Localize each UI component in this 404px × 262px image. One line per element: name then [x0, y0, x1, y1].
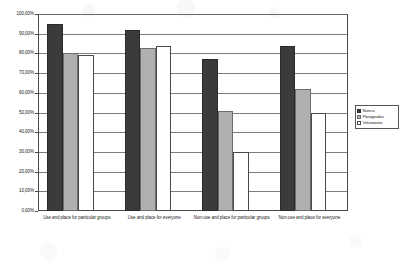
y-axis-tick-label: 50,00% [19, 110, 34, 115]
y-axis-tick-label: 80,00% [19, 51, 34, 56]
x-axis-category-label: Non-use and place for everyone [265, 215, 355, 221]
bar [233, 152, 249, 211]
y-axis-tick-label: 90,00% [19, 31, 34, 36]
y-axis-tick-label: 40,00% [19, 130, 34, 135]
legend-swatch [357, 109, 361, 113]
legend-swatch [357, 121, 361, 125]
bars-layer [38, 14, 348, 211]
legend-label: Voluntarios [363, 121, 383, 125]
bar [295, 89, 311, 211]
y-axis-tick-label: 20,00% [19, 169, 34, 174]
bar [78, 55, 94, 211]
y-axis-tick-label: 0,00% [21, 209, 34, 214]
y-axis-tick-label: 70,00% [19, 71, 34, 76]
y-axis-tick-label: 10,00% [19, 189, 34, 194]
legend-item: Voluntarios [357, 120, 396, 126]
bar-chart: 100,00%90,00%80,00%70,00%60,00%50,00%40,… [0, 0, 404, 262]
bar [202, 59, 218, 211]
bar [125, 30, 141, 211]
legend-swatch [357, 115, 361, 119]
y-axis-tick-label: 60,00% [19, 91, 34, 96]
bar [63, 53, 79, 211]
legend-label: Nunca [363, 109, 375, 113]
bar [140, 48, 156, 212]
x-axis-category-label: Use and place for everyone [110, 215, 200, 221]
x-axis-category-label: Non-use and place for particular groups [187, 215, 277, 221]
y-axis: 100,00%90,00%80,00%70,00%60,00%50,00%40,… [0, 0, 38, 215]
bar [218, 111, 234, 211]
y-axis-tick-label: 30,00% [19, 150, 34, 155]
bar-group [38, 14, 116, 211]
bar-group [271, 14, 349, 211]
bar [156, 46, 172, 211]
y-axis-tick-mark [35, 211, 38, 212]
x-axis-category-labels: Use and place for particular groupsUse a… [38, 213, 348, 243]
bar [280, 46, 296, 211]
bar-group [193, 14, 271, 211]
bar-group [116, 14, 194, 211]
x-axis-category-label: Use and place for particular groups [32, 215, 122, 221]
y-axis-tick-label: 100,00% [17, 12, 34, 17]
bar [311, 113, 327, 212]
bar [47, 24, 63, 211]
chart-legend: NuncaPlanypudasVoluntarios [355, 105, 399, 129]
legend-label: Planypudas [363, 115, 384, 119]
